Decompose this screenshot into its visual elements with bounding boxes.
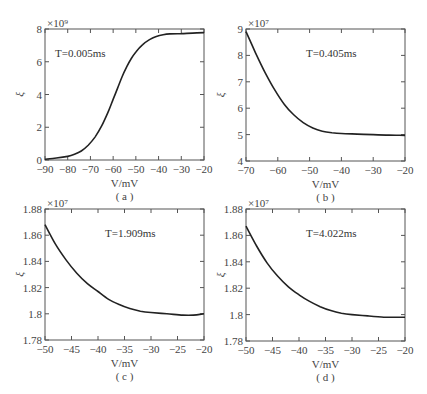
x-tick-label: −40 — [89, 343, 107, 355]
x-tick-label: −35 — [116, 343, 134, 355]
y-tick-label: 0 — [37, 154, 43, 166]
x-tick-label: −70 — [82, 163, 100, 175]
x-tick-label: −50 — [301, 164, 319, 176]
subplot-d: −50−45−40−35−30−25−201.781.81.821.841.86… — [214, 197, 414, 384]
y-tick-label: 9 — [238, 23, 244, 35]
x-tick-label: −30 — [365, 164, 383, 176]
y-tick-label: 6 — [238, 102, 244, 114]
x-axis-label: V/mV — [312, 358, 340, 370]
y-tick-label: 4 — [37, 89, 43, 101]
y-axis-label: ξ — [13, 92, 26, 97]
x-tick-label: −50 — [127, 163, 145, 175]
subplot-a: −90−80−70−60−50−40−30−2002468×10⁹ξV/mV( … — [13, 17, 213, 203]
y-tick-label: 4 — [238, 155, 244, 167]
time-annotation: T=0.005ms — [55, 47, 106, 59]
y-tick-label: 8 — [37, 23, 43, 35]
subplot-caption: ( c ) — [116, 370, 134, 383]
y-multiplier: ×10⁷ — [248, 17, 269, 29]
subplot-caption: ( b ) — [316, 191, 335, 204]
subplot-caption: ( a ) — [116, 190, 134, 203]
y-tick-label: 1.78 — [23, 334, 43, 346]
y-tick-label: 5 — [238, 129, 244, 141]
y-tick-label: 7 — [238, 76, 244, 88]
subplot-caption: ( d ) — [316, 371, 335, 384]
x-tick-label: −30 — [173, 163, 191, 175]
y-tick-label: 1.8 — [229, 309, 243, 321]
x-tick-label: −45 — [63, 343, 81, 355]
x-tick-label: −40 — [290, 344, 308, 356]
x-tick-label: −20 — [195, 163, 213, 175]
x-tick-label: −80 — [59, 163, 77, 175]
time-annotation: T=0.405ms — [306, 47, 357, 59]
data-curve — [246, 226, 405, 317]
x-axis-label: V/mV — [312, 178, 340, 190]
y-tick-label: 1.82 — [23, 282, 42, 294]
x-tick-label: −45 — [264, 344, 282, 356]
x-tick-label: −40 — [150, 163, 168, 175]
y-multiplier: ×10⁷ — [248, 197, 269, 209]
subplot-b: −70−60−50−40−30−20456789×10⁷ξV/mV( b )T=… — [214, 17, 414, 204]
x-tick-label: −25 — [370, 344, 388, 356]
y-tick-label: 1.88 — [224, 203, 244, 215]
y-tick-label: 1.88 — [23, 203, 43, 215]
x-tick-label: −20 — [396, 164, 414, 176]
y-axis-label: ξ — [214, 92, 227, 97]
x-tick-label: −20 — [195, 343, 213, 355]
y-tick-label: 2 — [37, 121, 43, 133]
x-tick-label: −60 — [105, 163, 123, 175]
x-tick-label: −30 — [343, 344, 361, 356]
x-tick-label: −60 — [269, 164, 287, 176]
x-tick-label: −40 — [333, 164, 351, 176]
subplot-c: −50−45−40−35−30−25−201.781.81.821.841.86… — [13, 197, 213, 383]
y-tick-label: 8 — [238, 49, 244, 61]
y-tick-label: 1.78 — [224, 335, 244, 347]
y-axis-label: ξ — [13, 272, 26, 277]
time-annotation: T=4.022ms — [306, 227, 357, 239]
y-tick-label: 1.84 — [23, 255, 43, 267]
y-multiplier: ×10⁹ — [47, 17, 68, 29]
y-tick-label: 6 — [37, 56, 43, 68]
x-tick-label: −25 — [169, 343, 187, 355]
x-tick-label: −20 — [396, 344, 414, 356]
x-tick-label: −30 — [142, 343, 160, 355]
y-tick-label: 1.8 — [28, 308, 42, 320]
y-axis-label: ξ — [214, 272, 227, 277]
x-tick-label: −35 — [317, 344, 335, 356]
y-tick-label: 1.82 — [224, 282, 243, 294]
figure-canvas: −90−80−70−60−50−40−30−2002468×10⁹ξV/mV( … — [0, 0, 427, 394]
x-axis-label: V/mV — [111, 177, 139, 189]
y-tick-label: 1.86 — [224, 229, 244, 241]
x-axis-label: V/mV — [111, 357, 139, 369]
y-tick-label: 1.84 — [224, 256, 244, 268]
y-multiplier: ×10⁷ — [47, 197, 68, 209]
y-tick-label: 1.86 — [23, 229, 43, 241]
time-annotation: T=1.909ms — [105, 227, 156, 239]
